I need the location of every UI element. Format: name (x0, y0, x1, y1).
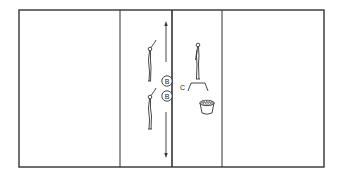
coach-stand-icon (188, 83, 208, 91)
player-marker-b-2: B (162, 91, 172, 101)
coach-label: C (180, 84, 185, 91)
player-label: B (165, 93, 170, 100)
arrow-down-icon (164, 112, 167, 158)
arrow-up-icon (164, 21, 167, 62)
ball-basket-icon (200, 100, 214, 114)
player-figure-upper-icon (148, 40, 156, 81)
court (19, 10, 324, 167)
player-figure-lower-icon (148, 88, 156, 129)
player-label: B (165, 78, 170, 85)
player-marker-b-1: B (162, 76, 172, 86)
coach-figure-icon (196, 43, 201, 79)
